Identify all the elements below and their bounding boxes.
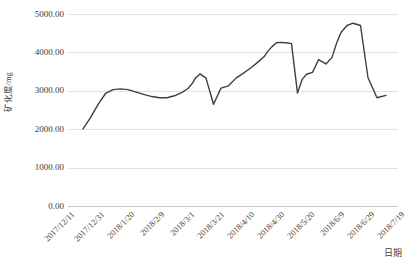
y-tick-label: 3000.00: [6, 86, 64, 95]
y-tick-label: 1000.00: [6, 163, 64, 172]
y-tick-label: 4000.00: [6, 48, 64, 57]
y-tick-label: 5000.00: [6, 10, 64, 19]
chart-container: 矿化度/mg 5000.004000.003000.002000.001000.…: [0, 0, 410, 272]
y-tick-label: 0.00: [6, 202, 64, 211]
x-axis-baseline: [68, 206, 398, 207]
series-line-chart: [68, 14, 398, 206]
series-polyline: [83, 23, 386, 129]
plot-area: [68, 14, 398, 206]
x-axis-title: 日期: [384, 249, 402, 258]
y-tick-label: 2000.00: [6, 125, 64, 134]
